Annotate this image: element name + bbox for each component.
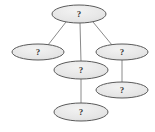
node-left[interactable]: ? bbox=[12, 44, 64, 60]
node-bottom[interactable]: ? bbox=[54, 103, 108, 121]
node-lower-right[interactable]: ? bbox=[96, 82, 148, 98]
node-middle[interactable]: ? bbox=[54, 61, 108, 79]
diagram-canvas: ? ? ? ? ? ? bbox=[0, 0, 155, 132]
edge-top-to-left bbox=[48, 22, 66, 45]
node-middle-label: ? bbox=[79, 65, 84, 75]
node-right[interactable]: ? bbox=[96, 44, 148, 60]
node-bottom-label: ? bbox=[79, 107, 84, 117]
node-top[interactable]: ? bbox=[52, 5, 106, 23]
edge-top-to-right bbox=[93, 22, 112, 45]
node-top-label: ? bbox=[77, 9, 82, 19]
nodes-layer: ? ? ? ? ? ? bbox=[12, 5, 148, 121]
node-lower-right-label: ? bbox=[120, 85, 125, 95]
node-left-label: ? bbox=[36, 47, 41, 57]
edge-top-to-middle bbox=[80, 23, 81, 62]
graph-svg: ? ? ? ? ? ? bbox=[0, 0, 155, 132]
node-right-label: ? bbox=[120, 47, 125, 57]
